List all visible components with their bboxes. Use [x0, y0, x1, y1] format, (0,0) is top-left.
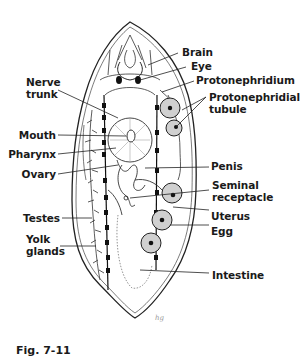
nerve-trunks — [104, 95, 157, 290]
figure-caption: Fig. 7-11 — [16, 344, 71, 357]
label-receptacle-line2: receptacle — [212, 191, 273, 203]
label-protonephridial-tubule: Protonephridial tubule — [209, 91, 300, 115]
label-yolk-line1: Yolk — [26, 233, 65, 245]
label-uterus: Uterus — [211, 210, 250, 222]
label-brain: Brain — [182, 46, 213, 58]
label-protonephridium: Protonephridium — [196, 74, 295, 86]
label-ovary: Ovary — [4, 168, 56, 180]
left-eye — [116, 76, 122, 84]
label-glands-line2: glands — [26, 245, 65, 257]
egg-capsules — [141, 98, 182, 253]
label-eye: Eye — [191, 60, 212, 72]
label-tubule-line2: tubule — [209, 103, 300, 115]
mouth — [127, 130, 135, 142]
label-testes: Testes — [4, 212, 60, 224]
label-intestine: Intestine — [212, 269, 264, 281]
label-seminal-line1: Seminal — [212, 179, 273, 191]
label-trunk-line2: trunk — [26, 88, 72, 100]
label-penis: Penis — [211, 160, 243, 172]
label-egg: Egg — [211, 225, 233, 237]
label-protonephridial-line1: Protonephridial — [209, 91, 300, 103]
label-nerve-line1: Nerve — [26, 76, 72, 88]
label-nerve-trunk: Nerve trunk — [26, 76, 72, 100]
label-pharynx: Pharynx — [2, 148, 56, 160]
artist-signature: hg — [155, 314, 164, 322]
label-mouth: Mouth — [4, 129, 56, 141]
label-yolk-glands: Yolk glands — [26, 233, 65, 257]
leader-lines — [58, 53, 209, 273]
label-seminal-receptacle: Seminal receptacle — [212, 179, 273, 203]
